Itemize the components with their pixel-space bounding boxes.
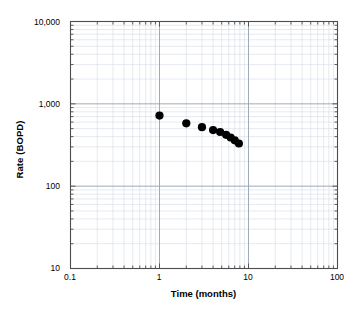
figure-caption xyxy=(36,303,326,313)
data-point xyxy=(155,111,163,119)
major-gridlines-vertical xyxy=(71,22,338,269)
minor-gridlines-horizontal xyxy=(71,25,338,243)
data-point xyxy=(209,126,217,134)
plot-area xyxy=(0,0,359,318)
minor-gridlines-vertical xyxy=(97,22,333,269)
data-point xyxy=(198,123,206,131)
data-point xyxy=(182,119,190,127)
data-point xyxy=(235,139,243,147)
plot-frame xyxy=(71,22,338,269)
major-gridlines-horizontal xyxy=(71,22,338,269)
axis-ticks xyxy=(71,22,338,269)
data-point-series xyxy=(155,111,243,147)
chart-figure: Rate (BOPD) Time (months) 10,000 1,000 1… xyxy=(0,0,359,318)
